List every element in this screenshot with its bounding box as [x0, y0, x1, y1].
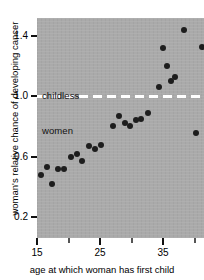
data-point — [181, 27, 187, 33]
x-axis-tick-major — [99, 238, 101, 245]
data-point — [61, 166, 67, 172]
data-point — [86, 143, 92, 149]
childless-women-label: childless women — [42, 67, 79, 159]
x-axis-tick-minor — [131, 238, 133, 243]
data-point — [74, 151, 80, 157]
data-point — [127, 123, 133, 129]
data-point — [145, 110, 151, 116]
data-point — [92, 146, 98, 152]
x-axis-tick-major — [162, 238, 164, 245]
data-point — [199, 44, 204, 50]
y-axis-title: woman's relative chance of developing ca… — [9, 11, 20, 226]
data-point — [38, 172, 44, 178]
childless-women-label-line-2: women — [42, 125, 79, 137]
data-point — [164, 63, 170, 69]
x-axis-tick-label: 15 — [25, 247, 49, 258]
data-point — [160, 45, 166, 51]
data-point — [98, 142, 104, 148]
data-point — [138, 116, 144, 122]
x-axis-title: age at which woman has first child — [0, 264, 204, 275]
x-axis-tick-label: 25 — [88, 247, 112, 258]
data-point — [156, 84, 162, 90]
x-axis-tick-minor — [68, 238, 70, 243]
data-point — [172, 74, 178, 80]
x-axis-tick-minor — [194, 238, 196, 243]
data-point — [49, 181, 55, 187]
x-axis-tick-major — [36, 238, 38, 245]
plot-area: childless women — [37, 18, 204, 238]
data-point — [110, 123, 116, 129]
data-point — [193, 130, 199, 136]
childless-women-label-line-1: childless — [42, 90, 79, 102]
data-point — [116, 113, 122, 119]
scatter-chart-figure: woman's relative chance of developing ca… — [0, 0, 204, 280]
x-axis-tick-label: 35 — [151, 247, 175, 258]
data-point — [44, 164, 50, 170]
y-axis-tick-label: 1.4 — [14, 30, 28, 41]
data-point — [79, 158, 85, 164]
y-axis-tick-label: 0.2 — [14, 211, 28, 222]
y-axis-tick-label: 1.0 — [14, 90, 28, 101]
y-axis-tick-label: 0.6 — [14, 151, 28, 162]
